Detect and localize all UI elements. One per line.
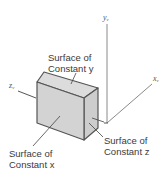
label-constant-z: Surface of Constant z — [104, 135, 149, 157]
z-axis-label: zv — [9, 81, 14, 90]
label-constant-y-line2: Constant y — [48, 63, 93, 74]
label-constant-x-line2: Constant x — [9, 159, 54, 170]
label-constant-x: Surface of Constant x — [9, 148, 54, 170]
y-axis-label: yv — [103, 13, 109, 22]
z-axis-subscript: v — [12, 85, 14, 90]
z-axis-line — [18, 91, 36, 98]
label-constant-z-line2: Constant z — [104, 146, 149, 157]
viewing-coordinates-diagram: yv xv zv Surface of Constant y Surface o… — [0, 0, 167, 182]
x-axis-line — [107, 84, 152, 123]
label-constant-z-line1: Surface of — [104, 135, 149, 146]
label-constant-y: Surface of Constant y — [48, 52, 93, 74]
x-axis-label: xv — [153, 74, 159, 83]
label-constant-x-line1: Surface of — [9, 148, 54, 159]
y-axis-subscript: v — [107, 17, 109, 22]
x-axis-subscript: v — [157, 78, 159, 83]
box-side-face — [84, 88, 98, 140]
label-constant-y-line1: Surface of — [48, 52, 93, 63]
